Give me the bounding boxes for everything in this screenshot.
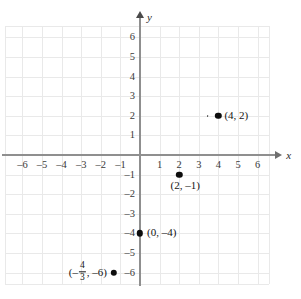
- fraction-denominator: 3: [79, 273, 86, 283]
- data-point-label-0-neg4: (0, –4): [147, 228, 176, 240]
- y-tick-label: 4: [130, 71, 135, 82]
- y-tick-label: 2: [130, 111, 135, 122]
- data-point-label-2-neg1: (2, –1): [171, 180, 200, 192]
- data-point-label-neg4over3-neg6: (–43, –6): [69, 262, 107, 283]
- grid-line-horizontal: [5, 135, 269, 136]
- grid-line-horizontal: [5, 284, 269, 285]
- x-tick-label: 5: [235, 160, 240, 171]
- y-axis: [139, 18, 141, 287]
- x-axis-label: x: [286, 150, 291, 161]
- y-tick-label: 1: [130, 130, 135, 141]
- x-tick-label: –5: [37, 160, 48, 171]
- x-tick-label: –4: [56, 160, 67, 171]
- x-tick-label: 2: [177, 160, 182, 171]
- y-tick-label: –2: [125, 189, 136, 200]
- x-tick-label: 3: [196, 160, 201, 171]
- x-tick-label: –6: [17, 160, 28, 171]
- grid-line-horizontal: [5, 253, 269, 254]
- x-tick-label: 6: [255, 160, 260, 171]
- grid-line-horizontal: [5, 26, 269, 27]
- y-tick-label: –5: [125, 248, 136, 259]
- grid-line-horizontal: [5, 175, 269, 176]
- x-tick-label: 4: [216, 160, 221, 171]
- x-axis-arrow-icon: [275, 151, 282, 159]
- grid-line-horizontal: [5, 37, 269, 38]
- stray-speck-mark: [207, 115, 209, 117]
- fraction-label-close: , –6): [87, 265, 107, 277]
- data-point-label-4-2: (4, 2): [224, 110, 248, 122]
- y-tick-label: 3: [130, 91, 135, 102]
- x-tick-label: –3: [76, 160, 87, 171]
- y-tick-label: –1: [125, 169, 136, 180]
- grid-line-horizontal: [5, 214, 269, 215]
- y-tick-label: 5: [130, 52, 135, 63]
- fraction-numerator: 4: [79, 261, 86, 271]
- y-tick-label: –6: [125, 267, 136, 278]
- grid-line-horizontal: [5, 96, 269, 97]
- fraction-label-open: (–: [69, 265, 78, 277]
- y-axis-label: y: [147, 12, 152, 23]
- y-axis-arrow-icon: [136, 11, 144, 18]
- y-tick-label: –3: [125, 209, 136, 220]
- x-tick-label: 1: [157, 160, 162, 171]
- y-tick-label: –4: [125, 228, 136, 239]
- grid-lines: [0, 0, 301, 299]
- y-tick-label: 6: [130, 32, 135, 43]
- coordinate-plane-figure: x y –6–5–4–3–2–1123456 654321–1–2–3–4–5–…: [0, 0, 301, 299]
- fraction-four-thirds: 43: [79, 261, 86, 282]
- grid-line-horizontal: [5, 273, 269, 274]
- grid-line-horizontal: [5, 77, 269, 78]
- grid-line-horizontal: [5, 194, 269, 195]
- grid-line-horizontal: [5, 57, 269, 58]
- x-tick-label: –2: [96, 160, 107, 171]
